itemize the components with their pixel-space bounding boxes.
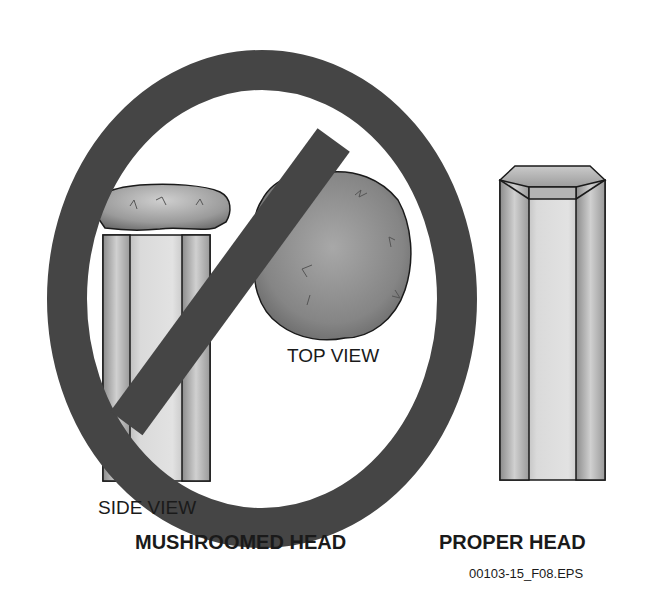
mushroomed-head-cap <box>95 184 230 230</box>
figure-id: 00103-15_F08.EPS <box>469 566 583 581</box>
side-view-label: SIDE VIEW <box>98 497 196 519</box>
proper-head-caption: PROPER HEAD <box>439 531 586 554</box>
top-view-label: TOP VIEW <box>287 345 379 367</box>
mushroomed-head-caption: MUSHROOMED HEAD <box>135 531 346 554</box>
proper-head-chisel <box>500 166 605 480</box>
